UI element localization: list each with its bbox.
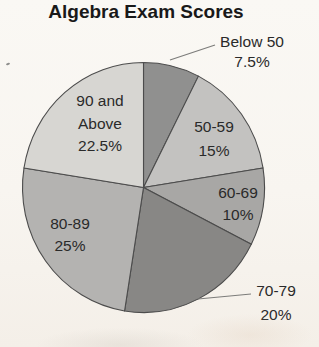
pie-chart: Below 507.5%50-5915%60-6910%70-7920%80-8…	[0, 0, 319, 347]
slice-label-70-79: 70-7920%	[256, 282, 296, 323]
scanned-page: Algebra Exam Scores Below 507.5%50-5915%…	[0, 0, 319, 347]
slice-label-below-50: Below 507.5%	[220, 33, 284, 70]
slice-label-90-and-above: 90 andAbove22.5%	[76, 92, 123, 154]
leader-line-below-50	[170, 45, 215, 60]
